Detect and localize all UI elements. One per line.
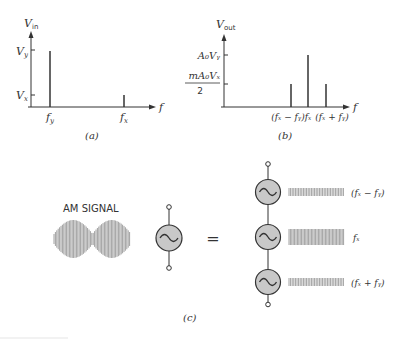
terminal-bottom-icon	[167, 266, 172, 271]
panel-a-spectrum-input: Vin Vy Vx f fy fx (a)	[16, 17, 165, 141]
x-axis-arrow-icon	[343, 105, 350, 110]
tick-label-high: A₀Vᵧ	[197, 50, 220, 61]
terminal-bottom-icon	[266, 302, 271, 307]
equals-sign: =	[206, 229, 219, 248]
x-tick-lower-sideband: (fₓ − fᵧ)	[271, 112, 305, 122]
component-label-carrier: fₓ	[352, 233, 360, 243]
component-label-upper-sideband: (fₓ + fᵧ)	[351, 278, 385, 288]
tick-label-low-numerator: mA₀Vₓ	[189, 70, 221, 81]
y-axis-arrow-icon	[222, 34, 227, 41]
x-tick-fx: fx	[119, 111, 128, 125]
single-generator	[156, 205, 182, 271]
tick-label-vy: Vy	[16, 45, 29, 59]
y-axis-label: Vout	[216, 18, 236, 32]
x-tick-fy: fy	[45, 111, 55, 125]
caption-b: (b)	[278, 130, 292, 141]
x-axis-arrow-icon	[149, 105, 156, 110]
terminal-top-icon	[266, 162, 271, 167]
terminal-top-icon	[167, 205, 172, 210]
waveform-upper-sideband	[289, 278, 343, 286]
waveform-lower-sideband	[289, 188, 343, 196]
caption-a: (a)	[85, 130, 99, 141]
component-label-lower-sideband: (fₓ − fᵧ)	[351, 188, 385, 198]
y-axis-label: Vin	[24, 17, 38, 31]
panel-c-decomposition: AM SIGNAL =	[54, 162, 385, 323]
waveform-carrier	[289, 229, 344, 245]
generator-stack	[256, 162, 281, 307]
caption-c: (c)	[183, 312, 197, 323]
panel-b-spectrum-output: Vout A₀Vᵧ mA₀Vₓ 2 f (fₓ − fᵧ) fₓ (fₓ + f…	[185, 18, 359, 141]
am-signal-waveform	[54, 220, 130, 258]
y-axis-arrow-icon	[29, 31, 34, 38]
x-tick-carrier: fₓ	[304, 112, 312, 122]
tick-label-low-denominator: 2	[197, 86, 203, 96]
tick-label-vx: Vx	[16, 89, 28, 103]
am-signal-label: AM SIGNAL	[63, 203, 119, 214]
am-spectrum-diagram: Vin Vy Vx f fy fx (a) Vout A₀Vᵧ mA₀Vₓ 2 …	[0, 0, 402, 341]
x-axis-label: f	[352, 101, 359, 114]
x-axis-label: f	[158, 101, 165, 114]
x-tick-upper-sideband: (fₓ + fᵧ)	[315, 112, 349, 122]
